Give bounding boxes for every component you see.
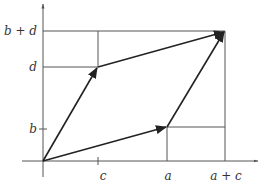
vector-cd-to-sum <box>98 32 224 67</box>
vector-ab <box>43 127 166 161</box>
vector-cd <box>43 68 97 161</box>
y-label-bd: b + d <box>4 24 37 38</box>
y-label-b: b <box>29 122 37 136</box>
x-label-ac: a + c <box>210 169 242 183</box>
y-label-d: d <box>29 60 37 74</box>
guide-lines <box>43 31 225 161</box>
x-label-a: a <box>164 169 171 183</box>
parallelogram-diagram: b + d d b c a a + c <box>0 0 274 189</box>
x-label-c: c <box>100 169 107 183</box>
